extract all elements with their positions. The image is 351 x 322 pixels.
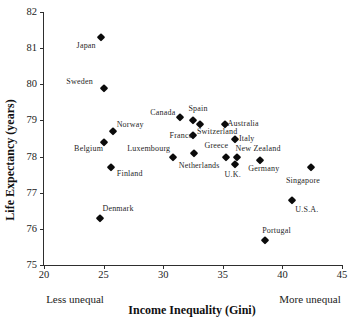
x-axis-title: Income Inequality (Gini) [128,303,255,318]
y-axis-tick-label: 79 [15,115,37,125]
data-point-label: Sweden [66,78,93,86]
data-point-marker [222,153,230,161]
y-axis-tick [40,84,44,85]
data-point-marker [107,163,115,171]
x-axis-annotation-more-unequal: More unequal [279,293,340,305]
x-axis-annotation-less-unequal: Less unequal [46,293,104,305]
data-point-label: Spain [188,105,207,113]
y-axis-tick-label: 80 [15,79,37,89]
data-point-label: U.S.A. [295,206,318,214]
y-axis-tick-label: 81 [15,43,37,53]
x-axis-tick-label: 40 [277,270,288,280]
data-point-label: Canada [150,109,175,117]
data-point-label: France [170,132,193,140]
data-point-label: Greece [204,142,228,150]
data-point-label: Switzerland [197,128,237,136]
y-axis-tick [40,120,44,121]
data-point-label: Italy [239,135,255,143]
y-axis-tick [40,229,44,230]
y-axis-tick-label: 82 [15,7,37,17]
x-axis-tick-label: 30 [158,270,169,280]
y-axis-tick-label: 77 [15,188,37,198]
data-point-marker [288,196,296,204]
data-point-marker [307,163,315,171]
data-point-marker [176,113,184,121]
data-point-marker [256,156,264,164]
data-point-marker [169,153,177,161]
data-point-marker [190,149,198,157]
data-point-label: U.K. [225,171,241,179]
data-point-label: Japan [77,42,96,50]
data-point-label: Luxembourg [127,145,170,153]
data-point-label: Portugal [262,227,291,235]
data-point-label: Norway [117,121,144,129]
data-point-label: Finland [117,170,143,178]
plot-area: 2025303540457576777879808182JapanSwedenN… [43,12,342,266]
data-point-marker [96,214,104,222]
data-point-marker [261,236,269,244]
scatter-plot-figure: Life Expectancy (years) 2025303540457576… [0,0,351,322]
data-point-marker [100,84,108,92]
y-axis-tick [40,48,44,49]
data-point-marker [231,160,239,168]
data-point-label: Germany [248,165,279,173]
y-axis-tick [40,193,44,194]
data-point-label: Singapore [286,177,320,185]
data-point-label: Denmark [102,205,133,213]
x-axis-tick-label: 25 [98,270,109,280]
data-point-label: Australia [228,120,259,128]
x-axis-tick-label: 35 [218,270,229,280]
data-point-label: Netherlands [179,162,220,170]
data-point-label: New Zealand [236,145,281,153]
y-axis-tick-label: 75 [15,260,37,270]
y-axis-tick [40,12,44,13]
x-axis-tick-label: 45 [337,270,348,280]
y-axis-tick-label: 76 [15,224,37,234]
y-axis-tick [40,157,44,158]
data-point-label: Belgium [74,145,103,153]
x-axis-tick-label: 20 [39,270,50,280]
data-point-marker [97,33,105,41]
y-axis-tick [40,265,44,266]
y-axis-tick-label: 78 [15,152,37,162]
